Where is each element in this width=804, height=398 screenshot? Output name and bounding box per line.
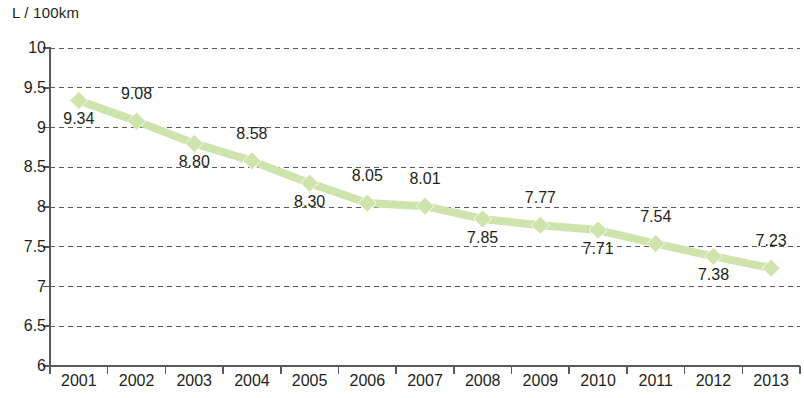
y-axis-tick-label: 7 <box>4 278 46 296</box>
data-point-value-label: 7.85 <box>467 229 498 247</box>
data-point-value-label: 7.23 <box>756 232 787 250</box>
data-point-value-label: 8.30 <box>294 193 325 211</box>
data-point-marker <box>762 259 780 277</box>
x-axis-tick-label: 2007 <box>407 372 443 390</box>
data-point-marker <box>647 235 665 253</box>
x-axis-tick-label: 2012 <box>696 372 732 390</box>
data-point-value-label: 7.54 <box>640 208 671 226</box>
data-point-marker <box>416 197 434 215</box>
y-axis-tick-labels: 109.598.587.576.56 <box>0 0 46 398</box>
y-axis-tick-label: 6.5 <box>4 317 46 335</box>
x-axis-tick-label: 2001 <box>61 372 97 390</box>
fuel-consumption-line-chart: L / 100km 109.598.587.576.56 20012002200… <box>0 0 804 398</box>
x-axis-tick-label: 2004 <box>234 372 270 390</box>
y-axis-tick-label: 8.5 <box>4 158 46 176</box>
y-axis-tick-label: 7.5 <box>4 238 46 256</box>
x-axis-tick-label: 2006 <box>350 372 386 390</box>
data-point-marker <box>474 210 492 228</box>
x-axis-tick-label: 2013 <box>753 372 789 390</box>
x-axis-tick-label: 2008 <box>465 372 501 390</box>
data-point-value-label: 8.05 <box>352 167 383 185</box>
data-point-value-label: 9.34 <box>63 110 94 128</box>
data-point-value-label: 7.71 <box>582 240 613 258</box>
data-point-value-label: 9.08 <box>121 85 152 103</box>
x-axis-tick-label: 2009 <box>523 372 559 390</box>
data-point-marker <box>531 216 549 234</box>
plot-area <box>0 0 804 398</box>
data-point-value-label: 8.80 <box>179 153 210 171</box>
data-point-marker <box>589 221 607 239</box>
data-point-marker <box>704 247 722 265</box>
y-axis-tick-label: 9.5 <box>4 79 46 97</box>
data-point-value-label: 7.38 <box>698 266 729 284</box>
x-axis-tick-label: 2002 <box>119 372 155 390</box>
x-axis-tick-label: 2011 <box>639 372 673 390</box>
y-axis-tick-label: 10 <box>4 39 46 57</box>
data-point-value-label: 7.77 <box>525 189 556 207</box>
y-axis-tick-label: 6 <box>4 357 46 375</box>
data-point-value-label: 8.58 <box>236 125 267 143</box>
x-axis-tick-label: 2010 <box>580 372 616 390</box>
data-point-value-label: 8.01 <box>409 170 440 188</box>
x-axis-tick-label: 2005 <box>292 372 328 390</box>
x-axis-tick-label: 2003 <box>176 372 212 390</box>
y-axis-tick-label: 9 <box>4 119 46 137</box>
y-axis-tick-label: 8 <box>4 198 46 216</box>
